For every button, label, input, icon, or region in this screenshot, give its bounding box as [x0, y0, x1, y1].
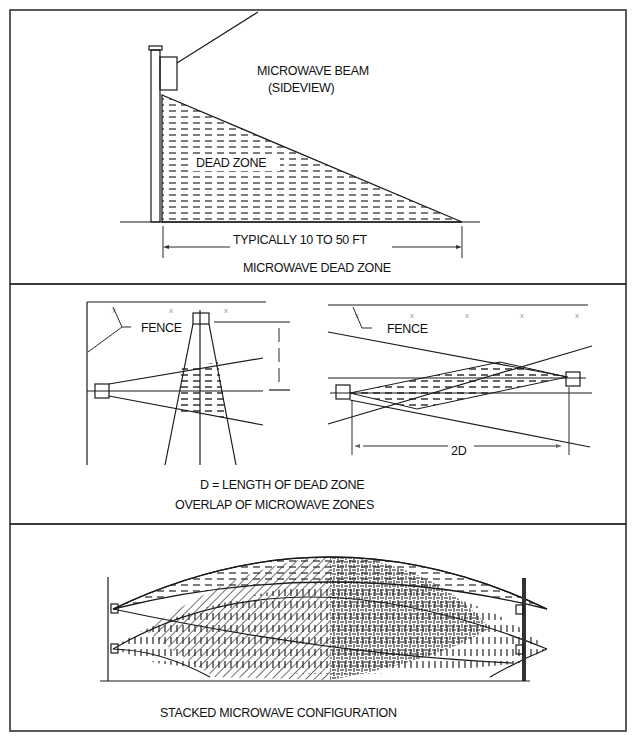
svg-text:x: x	[520, 311, 524, 320]
panel-caption: OVERLAP OF MICROWAVE ZONES	[175, 498, 374, 512]
svg-text:x: x	[575, 311, 579, 320]
panel-dead-zone: DEAD ZONE MICROWAVE BEAM (SIDEVIEW) TYPI…	[10, 10, 626, 284]
beam-line	[177, 12, 258, 63]
panel-caption: MICROWAVE DEAD ZONE	[243, 261, 391, 275]
diagram-canvas: DEAD ZONE MICROWAVE BEAM (SIDEVIEW) TYPI…	[0, 0, 638, 737]
dimension-label: TYPICALLY 10 TO 50 FT	[233, 233, 367, 247]
svg-text:x: x	[112, 306, 116, 315]
svg-text:x: x	[169, 306, 173, 315]
dead-zone-label: DEAD ZONE	[196, 156, 266, 170]
left-overlap-diagram: x x x FENCE	[87, 302, 290, 465]
panel-stacked: STACKED MICROWAVE CONFIGURATION	[10, 524, 626, 731]
beam-label: MICROWAVE BEAM	[257, 64, 369, 78]
panel-overlap: x x x FENCE x	[10, 284, 626, 524]
svg-text:x: x	[410, 311, 414, 320]
right-overlap-diagram: x x x x x FENCE 2D	[328, 305, 592, 458]
dimension-2d-label: 2D	[451, 444, 467, 458]
svg-text:x: x	[224, 306, 228, 315]
svg-text:x: x	[465, 311, 469, 320]
transmitter-icon	[566, 372, 580, 386]
fence-label-left: FENCE	[141, 321, 182, 335]
panel-caption: STACKED MICROWAVE CONFIGURATION	[160, 706, 397, 720]
fence-label-right: FENCE	[387, 322, 428, 336]
transmitter-icon	[193, 313, 209, 324]
transmitter-icon	[160, 57, 177, 90]
sensor-icon	[516, 605, 523, 614]
beam-sub-label: (SIDEVIEW)	[268, 81, 335, 95]
transmitter-icon	[336, 385, 350, 399]
definition-text: D = LENGTH OF DEAD ZONE	[200, 478, 364, 492]
